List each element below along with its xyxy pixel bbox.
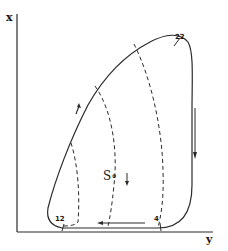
arrow-down-right-icon	[193, 108, 197, 159]
cycle-diagram	[0, 0, 228, 251]
arrow-left-bottom-icon	[97, 221, 145, 225]
point-label-22: 22	[175, 34, 185, 41]
outer-loop	[48, 35, 193, 228]
dashed-curve-middle	[95, 86, 115, 226]
point-label-12: 12	[55, 216, 65, 223]
point-label-4: 4	[154, 216, 159, 223]
center-label: S∘	[103, 170, 117, 182]
horizontal-axis-label: y	[206, 234, 212, 245]
arrow-up-left-icon	[76, 103, 81, 114]
vertical-axis-label: x	[6, 12, 13, 23]
dashed-curve-outer	[134, 44, 163, 228]
dashed-curve-inner	[64, 143, 79, 226]
tick-4	[160, 223, 161, 231]
arrow-down-center-icon	[125, 173, 129, 186]
diagram-canvas: x y 22 12 4 S∘	[0, 0, 228, 251]
